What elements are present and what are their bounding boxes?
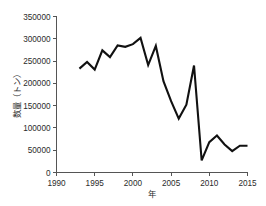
y-tick-label: 250000 bbox=[23, 57, 51, 66]
x-axis-title: 年 bbox=[148, 189, 156, 199]
y-tick-label: 350000 bbox=[23, 13, 51, 22]
chart-figure: 0500001000001500002000002500003000003500… bbox=[0, 0, 266, 206]
y-tick-label: 200000 bbox=[23, 79, 51, 88]
x-tick-label: 1990 bbox=[47, 179, 66, 188]
x-tick-label: 2015 bbox=[238, 179, 257, 188]
y-axis-title: 数量（トン） bbox=[12, 70, 22, 118]
y-tick-label: 50000 bbox=[28, 146, 51, 155]
y-tick-label: 150000 bbox=[23, 102, 51, 111]
y-tick-label: 100000 bbox=[23, 124, 51, 133]
x-tick-label: 2005 bbox=[162, 179, 181, 188]
x-tick-label: 1995 bbox=[86, 179, 105, 188]
y-tick-label: 0 bbox=[46, 169, 51, 178]
x-tick-label: 2000 bbox=[124, 179, 143, 188]
y-tick-label: 300000 bbox=[23, 35, 51, 44]
line-chart: 0500001000001500002000002500003000003500… bbox=[0, 0, 266, 206]
x-tick-label: 2010 bbox=[200, 179, 219, 188]
